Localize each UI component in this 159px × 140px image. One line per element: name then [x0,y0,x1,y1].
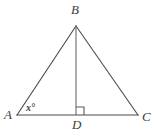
vertex-label-a: A [4,108,12,121]
geometry-figure: A B C D x° [0,0,159,140]
vertex-label-b: B [71,3,79,16]
vertex-label-d: D [72,118,81,131]
vertex-label-c: C [142,110,151,123]
angle-label-at-a: x° [26,103,35,113]
segment-bc [76,26,138,115]
right-angle-marker-icon [76,107,84,115]
